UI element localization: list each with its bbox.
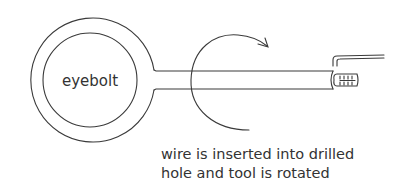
tool-wire-upper [333, 55, 384, 66]
eyebolt-wire-diagram: eyebolt wire is inserted into drilled ho… [0, 0, 415, 186]
tool-wire-lower [337, 58, 384, 66]
shaft-top-edge [154, 70, 333, 71]
eyebolt-label: eyebolt [62, 72, 118, 90]
eyebolt-shaft [154, 70, 333, 90]
wire-coil [334, 74, 358, 86]
caption-line-1: wire is inserted into drilled [161, 146, 354, 162]
rotation-arc [191, 35, 267, 130]
coil-turns [340, 76, 355, 85]
caption-line-2: hole and tool is rotated [161, 165, 330, 181]
bent-wire-tool [333, 55, 384, 66]
shaft-bottom-edge [154, 89, 333, 90]
rotation-arrow [191, 35, 268, 130]
shaft-end [331, 71, 333, 89]
